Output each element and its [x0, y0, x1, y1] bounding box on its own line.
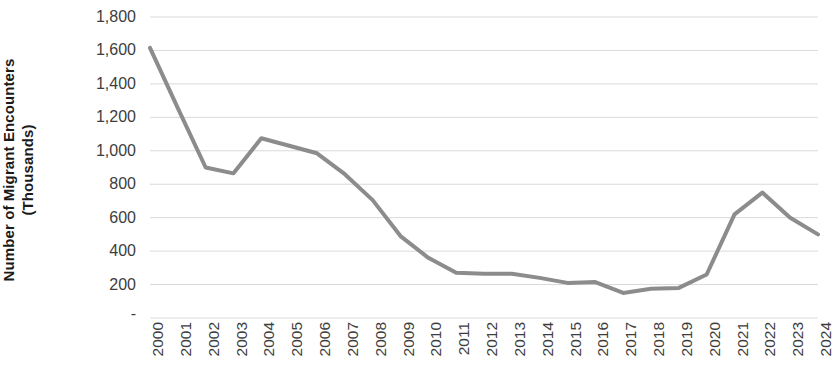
x-axis-tick-label-text: 2017 [623, 322, 639, 356]
x-axis-tick-label-text: 2012 [484, 322, 500, 356]
x-axis-tick-label-text: 2010 [428, 322, 444, 356]
x-axis-tick-label: 2020 [699, 322, 715, 382]
x-axis-tick-label-text: 2003 [234, 322, 250, 356]
y-axis-tick-label: 800 [109, 176, 136, 192]
x-axis-tick-label: 2000 [142, 322, 158, 382]
y-axis-tick-label: 1,600 [96, 42, 136, 58]
x-axis-tick-label: 2001 [170, 322, 186, 382]
x-axis-tick-label: 2004 [253, 322, 269, 382]
x-axis-tick-label-text: 2021 [735, 322, 751, 356]
x-axis-tick-label: 2023 [782, 322, 798, 382]
x-axis-tick-label: 2003 [226, 322, 242, 382]
x-axis-tick-label-text: 2022 [762, 322, 778, 356]
y-axis-tick-label: 600 [109, 210, 136, 226]
x-axis-tick-labels: 2000200120022003200420052006200720082009… [150, 318, 828, 387]
x-axis-tick-label: 2017 [615, 322, 631, 382]
y-axis-title-line-1: Number of Migrant Encounters [0, 59, 17, 282]
x-axis-tick-label-text: 2009 [401, 322, 417, 356]
y-axis-tick-label: 1,400 [96, 76, 136, 92]
y-axis-title: Number of Migrant Encounters (Thousands) [0, 0, 36, 340]
x-axis-tick-label-text: 2020 [707, 322, 723, 356]
x-axis-tick-label-text: 2015 [568, 322, 584, 356]
x-axis-tick-label: 2007 [337, 322, 353, 382]
x-axis-tick-label: 2011 [448, 322, 464, 382]
x-axis-tick-label-text: 2024 [818, 322, 834, 356]
x-axis-tick-label-text: 2001 [178, 322, 194, 356]
x-axis-tick-label-text: 2023 [790, 322, 806, 356]
x-axis-tick-label: 2008 [365, 322, 381, 382]
x-axis-tick-label: 2016 [587, 322, 603, 382]
x-axis-tick-label: 2014 [532, 322, 548, 382]
plot-svg [150, 17, 818, 318]
x-axis-tick-label-text: 2000 [150, 322, 166, 356]
y-axis-tick-label: 1,200 [96, 109, 136, 125]
x-axis-tick-label-text: 2011 [456, 322, 472, 355]
x-axis-tick-label: 2005 [281, 322, 297, 382]
y-axis-tick-labels: -2004006008001,0001,2001,4001,6001,800 [56, 0, 142, 340]
x-axis-tick-label: 2006 [309, 322, 325, 382]
y-axis-title-line-2: (Thousands) [18, 59, 37, 282]
y-axis-tick-label: 200 [109, 277, 136, 293]
x-axis-tick-label: 2015 [560, 322, 576, 382]
x-axis-tick-label: 2009 [393, 322, 409, 382]
x-axis-tick-label-text: 2008 [373, 322, 389, 356]
x-axis-tick-label: 2019 [671, 322, 687, 382]
y-axis-tick-label: 1,000 [96, 143, 136, 159]
x-axis-tick-label-text: 2006 [317, 322, 333, 356]
x-axis-tick-label: 2010 [420, 322, 436, 382]
x-axis-tick-label-text: 2007 [345, 322, 361, 356]
x-axis-tick-label: 2013 [504, 322, 520, 382]
x-axis-tick-label-text: 2005 [289, 322, 305, 356]
x-axis-tick-label: 2022 [754, 322, 770, 382]
x-axis-tick-label: 2024 [810, 322, 826, 382]
x-axis-tick-label-text: 2013 [512, 322, 528, 356]
x-axis-tick-label: 2018 [643, 322, 659, 382]
x-axis-tick-label-text: 2018 [651, 322, 667, 356]
data-series-line [150, 48, 818, 293]
x-axis-tick-label-text: 2004 [261, 322, 277, 356]
y-axis-tick-label: 1,800 [96, 9, 136, 25]
x-axis-tick-label: 2021 [727, 322, 743, 382]
x-axis-tick-label-text: 2014 [540, 322, 556, 356]
x-axis-tick-label: 2002 [198, 322, 214, 382]
x-axis-tick-label-text: 2016 [595, 322, 611, 356]
x-axis-tick-label-text: 2002 [206, 322, 222, 356]
y-axis-tick-label: 400 [109, 243, 136, 259]
plot-area [150, 17, 818, 318]
x-axis-tick-label-text: 2019 [679, 322, 695, 356]
x-axis-tick-label: 2012 [476, 322, 492, 382]
y-axis-tick-label: - [131, 306, 136, 322]
